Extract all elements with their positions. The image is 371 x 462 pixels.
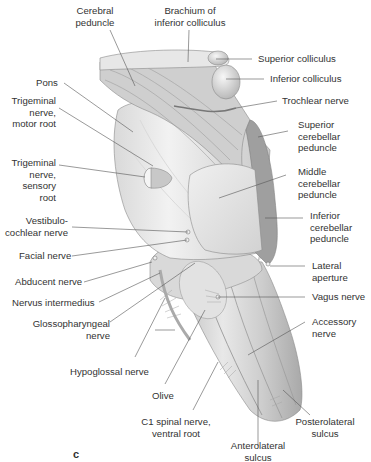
label-line: Trigeminal xyxy=(0,157,56,169)
label-trigeminal-motor-root: Trigeminal nerve, motor root xyxy=(0,95,56,130)
label-c1-spinal-nerve-ventral-root: C1 spinal nerve, ventral root xyxy=(138,416,214,439)
label-anterolateral-sulcus: Anterolateral sulcus xyxy=(222,440,294,462)
label-superior-colliculus: Superior colliculus xyxy=(258,53,336,65)
label-line: cerebellar xyxy=(298,178,340,190)
label-trigeminal-sensory-root: Trigeminal nerve, sensory root xyxy=(0,157,56,203)
label-line: Brachium of xyxy=(150,5,230,17)
label-facial-nerve: Facial nerve xyxy=(19,250,71,262)
label-line: Inferior xyxy=(310,210,352,222)
label-line: nerve, xyxy=(0,107,56,119)
label-line: nerve, xyxy=(0,169,56,181)
label-glossopharyngeal-nerve: Glossopharyngeal nerve xyxy=(20,318,110,341)
label-line: C1 spinal nerve, xyxy=(138,416,214,428)
label-superior-cerebellar-peduncle: Superior cerebellar peduncle xyxy=(298,119,340,154)
label-line: cerebellar xyxy=(298,131,340,143)
label-inferior-cerebellar-peduncle: Inferior cerebellar peduncle xyxy=(310,210,352,245)
middle-cerebellar-peduncle-shape xyxy=(188,164,262,254)
label-accessory-nerve: Accessory nerve xyxy=(312,316,356,339)
label-line: Vestibulo- xyxy=(0,215,68,227)
label-line: inferior colliculus xyxy=(150,17,230,29)
label-line: root xyxy=(0,192,56,204)
label-olive: Olive xyxy=(152,390,174,402)
label-line: peduncle xyxy=(310,233,352,245)
label-hypoglossal-nerve: Hypoglossal nerve xyxy=(70,366,149,378)
label-line: Lateral xyxy=(312,260,348,272)
label-inferior-colliculus: Inferior colliculus xyxy=(270,73,341,85)
label-trochlear-nerve: Trochlear nerve xyxy=(282,95,349,107)
label-abducent-nerve: Abducent nerve xyxy=(15,276,82,288)
label-lateral-aperture: Lateral aperture xyxy=(312,260,348,283)
label-line: Glossopharyngeal xyxy=(20,318,110,330)
label-line: sulcus xyxy=(290,428,360,440)
panel-letter: c xyxy=(73,448,79,460)
label-line: nerve xyxy=(20,330,110,342)
label-line: cochlear nerve xyxy=(0,227,68,239)
inferior-colliculus-shape xyxy=(212,65,240,99)
label-line: peduncle xyxy=(298,189,340,201)
label-cerebral-peduncle: Cerebral peduncle xyxy=(60,5,130,28)
label-line: Superior xyxy=(298,119,340,131)
label-line: Accessory xyxy=(312,316,356,328)
label-line: cerebellar xyxy=(310,222,352,234)
label-nervus-intermedius: Nervus intermedius xyxy=(12,297,95,309)
label-posterolateral-sulcus: Posterolateral sulcus xyxy=(290,416,360,439)
label-vagus-nerve: Vagus nerve xyxy=(312,291,365,303)
label-brachium-inferior-colliculus: Brachium of inferior colliculus xyxy=(150,5,230,28)
label-line: Trigeminal xyxy=(0,95,56,107)
label-line: nerve xyxy=(312,328,356,340)
label-line: Cerebral xyxy=(60,5,130,17)
label-line: Anterolateral xyxy=(222,440,294,452)
label-line: peduncle xyxy=(60,17,130,29)
label-line: ventral root xyxy=(138,428,214,440)
label-pons: Pons xyxy=(36,77,58,89)
label-line: sulcus xyxy=(222,452,294,462)
label-line: peduncle xyxy=(298,142,340,154)
label-middle-cerebellar-peduncle: Middle cerebellar peduncle xyxy=(298,166,340,201)
label-line: Middle xyxy=(298,166,340,178)
label-line: motor root xyxy=(0,118,56,130)
superior-colliculus-shape xyxy=(208,51,228,65)
label-line: Posterolateral xyxy=(290,416,360,428)
label-line: aperture xyxy=(312,272,348,284)
label-vestibulocochlear-nerve: Vestibulo- cochlear nerve xyxy=(0,215,68,238)
label-line: sensory xyxy=(0,180,56,192)
